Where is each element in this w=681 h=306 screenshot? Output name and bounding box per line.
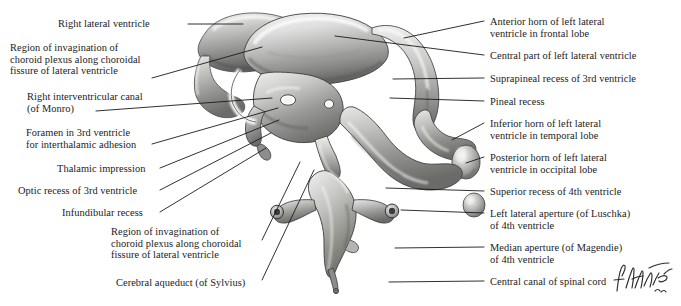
- label-line: ventricle in temporal lobe: [490, 130, 601, 142]
- label-central-part-left-lateral-ventricle: Central part of left lateral ventricle: [490, 50, 636, 62]
- label-posterior-horn-left-lateral-ventricle-occipital-lobe: Posterior horn of left lateralventricle …: [490, 152, 607, 175]
- label-line: Inferior horn of left lateral: [490, 118, 601, 130]
- label-line: Central part of left lateral ventricle: [490, 50, 636, 62]
- label-median-aperture-of-magendie-4th-ventricle: Median aperture (of Magendie)of 4th vent…: [490, 242, 622, 265]
- label-line: Infundibular recess: [62, 207, 143, 219]
- label-anterior-horn-left-lateral-ventricle-frontal-lobe: Anterior horn of left lateralventricle i…: [490, 16, 605, 39]
- label-line: Pineal recess: [490, 96, 545, 108]
- label-line: Cerebral aqueduct (of Sylvius): [116, 277, 245, 289]
- label-right-interventricular-canal-of-monro: Right interventricular canal(of Monro): [27, 91, 143, 114]
- artist-signature: [611, 258, 675, 298]
- label-line: ventricle in frontal lobe: [490, 28, 605, 40]
- label-optic-recess-3rd-ventricle: Optic recess of 3rd ventricle: [18, 185, 137, 197]
- label-line: of 4th ventricle: [490, 220, 630, 232]
- label-right-lateral-ventricle: Right lateral ventricle: [58, 18, 150, 30]
- label-line: Superior recess of 4th ventricle: [490, 186, 621, 198]
- label-line: fissure of lateral ventricle: [10, 65, 141, 77]
- label-line: choroid plexus along choroidal: [10, 54, 141, 66]
- label-inferior-horn-left-lateral-ventricle-temporal-lobe: Inferior horn of left lateralventricle i…: [490, 118, 601, 141]
- label-line: Right interventricular canal: [27, 91, 143, 103]
- label-line: Posterior horn of left lateral: [490, 152, 607, 164]
- label-thalamic-impression: Thalamic impression: [57, 163, 145, 175]
- label-line: Median aperture (of Magendie): [490, 242, 622, 254]
- label-line: Right lateral ventricle: [58, 18, 150, 30]
- label-line: ventricle in occipital lobe: [490, 164, 607, 176]
- label-line: Thalamic impression: [57, 163, 145, 175]
- label-line: Optic recess of 3rd ventricle: [18, 185, 137, 197]
- label-cerebral-aqueduct-of-sylvius: Cerebral aqueduct (of Sylvius): [116, 277, 245, 289]
- ventricles-of-brain-figure: Right lateral ventricleRegion of invagin…: [0, 0, 681, 306]
- label-line: fissure of lateral ventricle: [111, 249, 242, 261]
- label-region-invagination-choroid-plexus-upper: Region of invagination ofchoroid plexus …: [10, 42, 141, 77]
- label-infundibular-recess: Infundibular recess: [62, 207, 143, 219]
- label-foramen-3rd-ventricle-interthalamic-adhesion: Foramen in 3rd ventriclefor interthalami…: [26, 127, 136, 150]
- label-line: (of Monro): [27, 103, 143, 115]
- label-line: Left lateral aperture (of Luschka): [490, 208, 630, 220]
- label-line: Anterior horn of left lateral: [490, 16, 605, 28]
- label-central-canal-of-spinal-cord: Central canal of spinal cord: [490, 276, 606, 288]
- label-region-invagination-choroid-plexus-lower: Region of invagination ofchoroid plexus …: [111, 226, 242, 261]
- label-line: Central canal of spinal cord: [490, 276, 606, 288]
- label-line: choroid plexus along choroidal: [111, 238, 242, 250]
- label-line: Region of invagination of: [111, 226, 242, 238]
- label-suprapineal-recess-3rd-ventricle: Suprapineal recess of 3rd ventricle: [490, 73, 636, 85]
- label-left-lateral-aperture-of-luschka-4th-ventricle: Left lateral aperture (of Luschka)of 4th…: [490, 208, 630, 231]
- label-line: Foramen in 3rd ventricle: [26, 127, 136, 139]
- label-line: Region of invagination of: [10, 42, 141, 54]
- label-line: for interthalamic adhesion: [26, 139, 136, 151]
- label-line: of 4th ventricle: [490, 254, 622, 266]
- label-line: Suprapineal recess of 3rd ventricle: [490, 73, 636, 85]
- label-superior-recess-4th-ventricle: Superior recess of 4th ventricle: [490, 186, 621, 198]
- label-pineal-recess: Pineal recess: [490, 96, 545, 108]
